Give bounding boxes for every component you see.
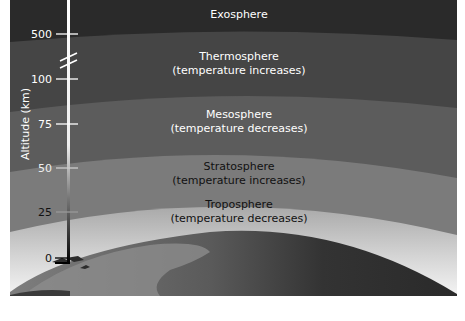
label-exosphere: Exosphere bbox=[210, 8, 268, 21]
tick-0: 0 bbox=[45, 252, 52, 265]
tick-500: 500 bbox=[31, 28, 52, 41]
svg-text:Troposphere: Troposphere bbox=[204, 198, 273, 211]
svg-text:(temperature increases): (temperature increases) bbox=[172, 174, 305, 187]
tick-75: 75 bbox=[38, 118, 52, 131]
svg-text:Exosphere: Exosphere bbox=[210, 8, 268, 21]
atmosphere-diagram: Exosphere Thermosphere (temperature incr… bbox=[10, 0, 457, 296]
svg-text:(temperature increases): (temperature increases) bbox=[172, 64, 305, 77]
svg-text:Stratosphere: Stratosphere bbox=[203, 160, 274, 173]
tick-100: 100 bbox=[31, 73, 52, 86]
svg-text:(temperature decreases): (temperature decreases) bbox=[170, 122, 307, 135]
tick-25: 25 bbox=[38, 206, 52, 219]
svg-text:Mesosphere: Mesosphere bbox=[206, 108, 272, 121]
svg-text:Thermosphere: Thermosphere bbox=[198, 50, 279, 63]
svg-text:(temperature decreases): (temperature decreases) bbox=[170, 212, 307, 225]
tick-50: 50 bbox=[38, 162, 52, 175]
axis-title: Altitude (km) bbox=[19, 88, 32, 160]
